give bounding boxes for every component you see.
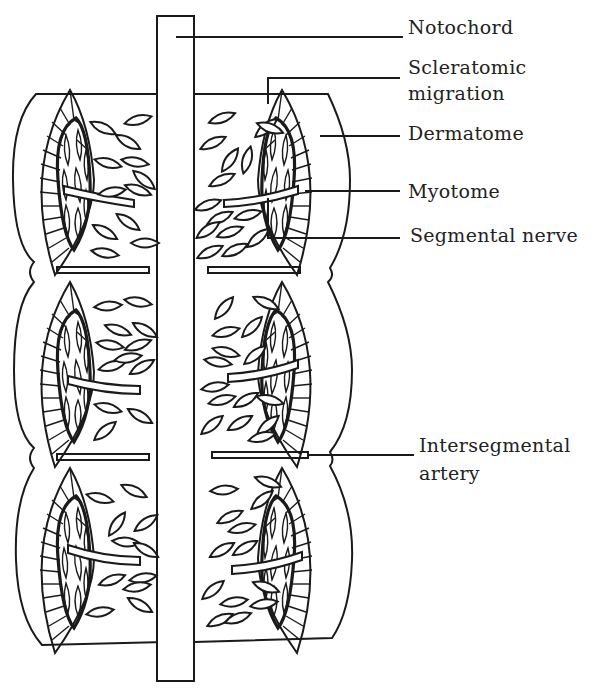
dermomyotome-right-1 — [258, 90, 312, 275]
label-intersegmental-artery-line2: artery — [419, 462, 480, 484]
label-scleratomic-migration-line2: migration — [408, 82, 505, 104]
dermomyotome-left-2 — [40, 282, 94, 467]
label-myotome: Myotome — [408, 180, 500, 202]
label-dermatome: Dermatome — [408, 122, 524, 144]
label-segmental-nerve: Segmental nerve — [410, 224, 578, 246]
notochord — [157, 16, 194, 681]
label-scleratomic-migration-line1: Scleratomic — [408, 56, 527, 78]
label-notochord: Notochord — [408, 16, 513, 38]
label-intersegmental-artery-line1: Intersegmental — [419, 434, 571, 456]
somite-diagram — [0, 0, 598, 693]
dermomyotome-left-1 — [40, 90, 94, 275]
dermomyotome-left-3 — [40, 468, 94, 653]
